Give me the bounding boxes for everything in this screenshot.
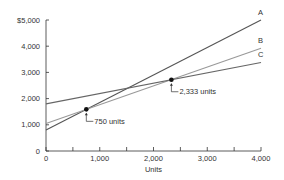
y-tick-label: 0: [36, 147, 40, 156]
series-line-b: [46, 48, 261, 123]
x-tick-label: 2,000: [144, 154, 163, 163]
chart: 01,0002,0003,0004,000$5,00001,0002,0003,…: [0, 0, 284, 180]
series-line-a: [46, 20, 261, 130]
x-axis-label: Units: [145, 165, 162, 174]
series-lines: ABC: [46, 8, 264, 130]
x-tick-label: 3,000: [198, 154, 217, 163]
annotations: 750 units2,333 units: [84, 77, 216, 125]
x-tick-label: 4,000: [252, 154, 271, 163]
annotation-arrow: [171, 84, 178, 92]
intersection-point: [169, 77, 174, 82]
y-tick-label: $5,000: [17, 16, 40, 25]
y-tick-label: 1,000: [21, 120, 40, 129]
arrow-head-icon: [85, 113, 88, 116]
annotation-label: 750 units: [94, 117, 125, 126]
series-label-a: A: [258, 8, 263, 17]
y-tick-label: 4,000: [21, 42, 40, 51]
series-label-b: B: [258, 36, 263, 45]
intersection-point: [84, 107, 89, 112]
arrow-head-icon: [170, 83, 173, 86]
series-line-c: [46, 62, 261, 103]
series-label-c: C: [258, 50, 264, 59]
y-tick-label: 2,000: [21, 94, 40, 103]
annotation-arrow: [86, 113, 93, 121]
x-tick-label: 1,000: [90, 154, 109, 163]
annotation-label: 2,333 units: [179, 87, 216, 96]
y-tick-label: 3,000: [21, 68, 40, 77]
x-tick-label: 0: [44, 154, 48, 163]
